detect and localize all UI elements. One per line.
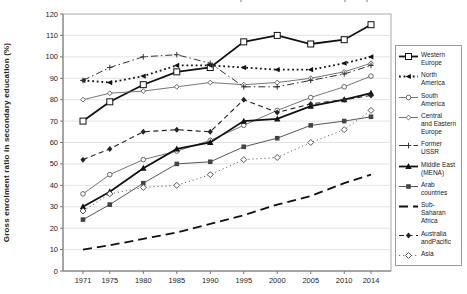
y-tick-label: 110	[46, 31, 58, 40]
legend-label-australia-and-pacific: AustraliaandPacific	[421, 230, 451, 246]
legend-key-south-america	[398, 93, 419, 102]
y-tick-label: 40	[50, 181, 58, 190]
legend-label-sub-saharan-africa: Sub-SaharanAfrica	[421, 201, 459, 225]
legend-key-middle-east-mena	[398, 162, 419, 171]
legend-key-western-europe	[398, 52, 419, 61]
legend-item-central-and-eastern-europe: Centraland EasternEurope	[398, 112, 459, 136]
legend-key-sub-saharan-africa	[398, 202, 419, 211]
legend-label-western-europe: WesternEurope	[421, 51, 445, 67]
y-tick-label: 0	[54, 267, 58, 276]
legend-item-asia: Asia	[398, 250, 459, 260]
x-tick-label: 2010	[336, 276, 353, 285]
y-tick-label: 70	[50, 117, 58, 126]
y-tick-label: 60	[50, 138, 58, 147]
series-line-asia	[83, 110, 371, 211]
x-tick-label: 1980	[135, 276, 152, 285]
x-tick-label: 1985	[168, 276, 185, 285]
chart-legend: WesternEuropeNorthAmericaSouthAmericaCen…	[395, 45, 462, 266]
series-sub-saharan-africa	[83, 175, 371, 250]
x-tick-label: 2014	[363, 276, 380, 285]
series-middle-east-mena	[80, 90, 374, 210]
series-line-sub-saharan-africa	[83, 175, 371, 250]
legend-item-north-america: NorthAmerica	[398, 71, 459, 87]
x-tick-label: 1975	[101, 276, 118, 285]
legend-key-former-ussr	[398, 141, 419, 150]
legend-item-australia-and-pacific: AustraliaandPacific	[398, 230, 459, 246]
x-tick-label: 1971	[75, 276, 92, 285]
legend-label-arab-countries: Arabcountries	[421, 181, 447, 197]
legend-key-asia	[398, 251, 419, 260]
legend-item-sub-saharan-africa: Sub-SaharanAfrica	[398, 201, 459, 225]
y-tick-label: 10	[50, 245, 58, 254]
y-tick-label: 20	[50, 224, 58, 233]
legend-key-north-america	[398, 72, 419, 81]
legend-label-south-america: SouthAmerica	[421, 92, 445, 108]
legend-item-south-america: SouthAmerica	[398, 92, 459, 108]
legend-key-australia-and-pacific	[398, 231, 419, 240]
legend-key-central-and-eastern-europe	[398, 113, 419, 122]
series-western-europe	[80, 22, 374, 124]
series-markers-central-and-eastern-europe	[81, 61, 374, 102]
series-markers-north-america	[80, 54, 373, 85]
x-tick-label: 2005	[302, 276, 319, 285]
series-line-australia-and-pacific	[83, 95, 371, 159]
x-tick-label: 2000	[269, 276, 286, 285]
y-tick-label: 50	[50, 159, 58, 168]
series-north-america	[80, 54, 373, 85]
line-chart: Gross enrolment ratio in secondary educa…	[0, 0, 467, 294]
legend-label-middle-east-mena: Middle East(MENA)	[421, 161, 455, 177]
legend-item-western-europe: WesternEurope	[398, 51, 459, 67]
legend-item-middle-east-mena: Middle East(MENA)	[398, 161, 459, 177]
legend-item-arab-countries: Arabcountries	[398, 181, 459, 197]
legend-label-former-ussr: FormerUSSR	[421, 140, 442, 156]
legend-key-arab-countries	[398, 182, 419, 191]
legend-label-central-and-eastern-europe: Centraland EasternEurope	[421, 112, 456, 136]
series-central-and-eastern-europe	[81, 61, 374, 102]
legend-label-asia: Asia	[421, 250, 434, 258]
y-tick-label: 120	[45, 10, 58, 19]
y-tick-label: 30	[50, 202, 58, 211]
x-tick-label: 1995	[235, 276, 252, 285]
y-tick-label: 100	[45, 52, 58, 61]
series-line-former-ussr	[83, 55, 371, 87]
series-markers-western-europe	[80, 22, 374, 124]
y-tick-label: 90	[50, 74, 58, 83]
series-line-western-europe	[83, 25, 371, 121]
y-tick-label: 80	[50, 95, 58, 104]
legend-label-north-america: NorthAmerica	[421, 71, 445, 87]
series-markers-middle-east-mena	[80, 90, 374, 210]
x-tick-label: 1990	[202, 276, 219, 285]
legend-item-former-ussr: FormerUSSR	[398, 140, 459, 156]
